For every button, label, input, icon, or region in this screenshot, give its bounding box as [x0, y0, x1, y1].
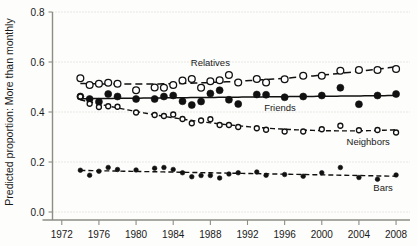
data-point-relatives	[86, 82, 93, 89]
x-tick-label: 1992	[236, 229, 259, 240]
data-point-neighbors	[161, 114, 166, 119]
data-point-neighbors	[217, 123, 222, 128]
data-point-friends	[300, 93, 307, 100]
data-point-relatives	[318, 72, 325, 79]
data-point-friends	[160, 93, 167, 100]
x-tick-label: 1988	[199, 229, 222, 240]
data-point-friends	[253, 91, 260, 98]
data-point-friends	[188, 102, 195, 109]
scatter-plot-svg: 0.00.20.40.60.8 197219761980198419881992…	[0, 0, 417, 246]
y-axis-title: Predicted proportion: More than monthly	[3, 18, 15, 206]
data-point-relatives	[179, 77, 186, 84]
series-label-bars: Bars	[373, 182, 393, 193]
data-point-relatives	[188, 76, 195, 83]
data-point-neighbors	[115, 104, 120, 109]
data-point-neighbors	[282, 129, 287, 134]
axes-group	[43, 12, 411, 225]
data-point-relatives	[77, 75, 84, 82]
x-tick-labels-group: 1972197619801984198819921996200020042008	[51, 229, 408, 240]
data-point-relatives	[161, 84, 168, 91]
data-point-relatives	[207, 78, 214, 85]
data-point-neighbors	[394, 130, 399, 135]
series-data-points-group	[77, 66, 400, 182]
y-tick-label: 0.2	[31, 157, 45, 168]
y-tick-label: 0.6	[31, 57, 45, 68]
data-point-friends	[151, 96, 158, 103]
data-point-friends	[374, 92, 381, 99]
x-tick-label: 1972	[51, 229, 74, 240]
data-point-neighbors	[134, 110, 139, 115]
data-point-bars	[236, 170, 241, 175]
data-point-relatives	[235, 79, 242, 86]
data-point-relatives	[226, 72, 233, 79]
y-axis-title-group: Predicted proportion: More than monthly	[3, 18, 15, 206]
data-point-neighbors	[254, 126, 259, 131]
chart-container: 0.00.20.40.60.8 197219761980198419881992…	[0, 0, 417, 246]
x-tick-label: 1976	[88, 229, 111, 240]
y-tick-label: 0.8	[31, 7, 45, 18]
data-point-neighbors	[236, 125, 241, 130]
data-point-neighbors	[96, 105, 101, 110]
data-point-bars	[171, 167, 176, 172]
y-tick-labels-group: 0.00.20.40.60.8	[31, 7, 45, 218]
data-point-relatives	[170, 82, 177, 89]
data-point-bars	[87, 173, 92, 178]
gridlines-group	[53, 12, 411, 212]
data-point-neighbors	[180, 117, 185, 122]
x-tick-label: 2004	[348, 229, 371, 240]
data-point-neighbors	[152, 113, 157, 118]
data-point-friends	[207, 90, 214, 97]
data-point-relatives	[300, 72, 307, 79]
data-point-neighbors	[171, 112, 176, 117]
data-point-neighbors	[189, 121, 194, 126]
data-point-bars	[106, 165, 111, 170]
data-point-neighbors	[264, 127, 269, 132]
data-point-relatives	[216, 77, 223, 84]
data-point-bars	[375, 177, 380, 182]
data-point-bars	[180, 170, 185, 175]
data-point-relatives	[356, 67, 363, 74]
data-point-friends	[318, 92, 325, 99]
data-point-bars	[301, 174, 306, 179]
data-point-bars	[319, 170, 324, 175]
data-point-neighbors	[106, 104, 111, 109]
data-point-friends	[263, 91, 270, 98]
data-point-bars	[338, 165, 343, 170]
data-point-bars	[227, 172, 232, 177]
data-point-bars	[264, 173, 269, 178]
data-point-bars	[189, 174, 194, 179]
x-tick-label: 2008	[385, 229, 408, 240]
series-label-friends: Friends	[264, 102, 296, 113]
series-label-relatives: Relatives	[191, 57, 230, 68]
data-point-friends	[393, 91, 400, 98]
series-label-neighbors: Neighbors	[347, 136, 391, 147]
x-tick-label: 1996	[274, 229, 297, 240]
data-point-relatives	[263, 79, 270, 86]
data-point-friends	[281, 94, 288, 101]
data-point-friends	[114, 93, 121, 100]
data-point-friends	[170, 92, 177, 99]
data-point-neighbors	[199, 118, 204, 123]
data-point-neighbors	[338, 123, 343, 128]
x-tick-label: 1980	[125, 229, 148, 240]
data-point-friends	[105, 91, 112, 98]
data-point-relatives	[337, 67, 344, 74]
y-tick-label: 0.4	[31, 107, 45, 118]
data-point-relatives	[253, 76, 260, 83]
data-point-bars	[162, 165, 167, 170]
data-point-bars	[152, 166, 157, 171]
data-point-relatives	[374, 67, 381, 74]
data-point-bars	[199, 173, 204, 178]
data-point-bars	[282, 172, 287, 177]
data-point-relatives	[393, 66, 400, 73]
data-point-neighbors	[375, 128, 380, 133]
data-point-bars	[134, 168, 139, 173]
data-point-neighbors	[226, 123, 231, 128]
data-point-bars	[115, 167, 120, 172]
data-point-relatives	[105, 79, 112, 86]
data-point-friends	[225, 96, 232, 103]
data-point-bars	[254, 170, 259, 175]
data-point-relatives	[96, 80, 103, 87]
data-point-friends	[355, 101, 362, 108]
data-point-friends	[216, 87, 223, 94]
